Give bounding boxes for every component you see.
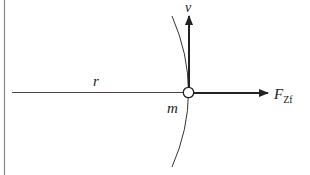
circular-motion-diagram: v r m FZf [0,0,310,175]
radius-label: r [93,73,99,89]
mass-point [183,87,193,97]
mass-label: m [167,100,178,116]
force-label: FZf [273,86,293,105]
force-label-subscript: Zf [283,94,293,105]
velocity-label: v [185,0,192,15]
